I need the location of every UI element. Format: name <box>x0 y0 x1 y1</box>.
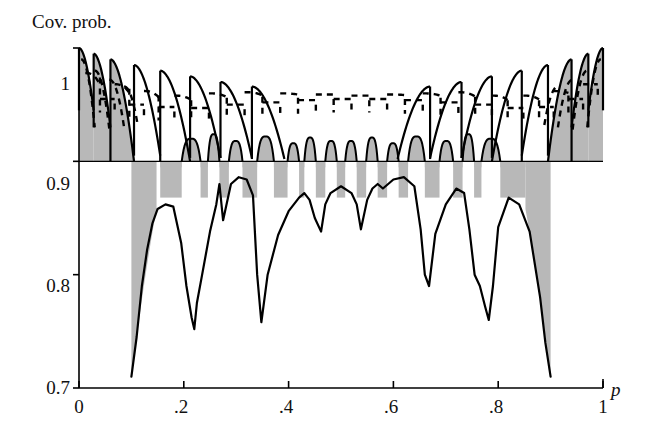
chart-figure: { "chart_data": { "type": "line", "title… <box>0 0 650 430</box>
chart-canvas <box>0 0 650 430</box>
